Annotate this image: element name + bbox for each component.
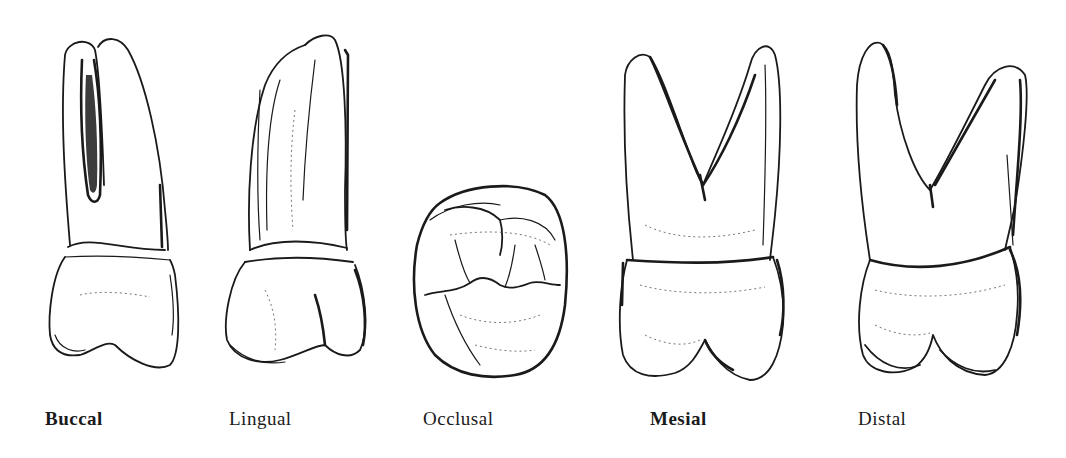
label-lingual: Lingual [229, 408, 292, 430]
distal-view-drawing [835, 35, 1035, 385]
occlusal-view-drawing [405, 175, 575, 385]
tooth-views-figure: Buccal Lingual Occlusal Mesial Distal [0, 0, 1066, 458]
label-mesial: Mesial [650, 408, 707, 430]
label-buccal: Buccal [45, 408, 103, 430]
label-distal: Distal [858, 408, 906, 430]
label-occlusal: Occlusal [423, 408, 493, 430]
mesial-view-drawing [605, 35, 795, 385]
lingual-view-drawing [205, 30, 380, 380]
buccal-view-drawing [20, 35, 190, 380]
